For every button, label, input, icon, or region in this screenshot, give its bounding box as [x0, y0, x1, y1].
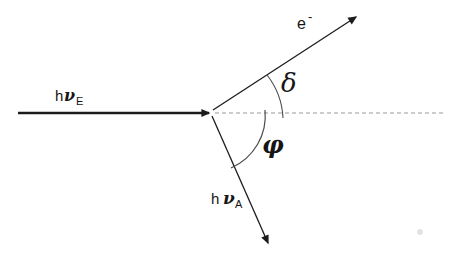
delta-angle-label: δ — [281, 68, 297, 98]
scattered-photon-label-h: h — [211, 190, 219, 207]
incident-photon-label-h: h — [55, 87, 63, 104]
scattered-photon-label-subscript: A — [235, 198, 243, 210]
scattered-photon-arrow — [212, 116, 268, 243]
incident-photon-label-nu: ν — [64, 86, 75, 105]
scattering-diagram-canvas: h ν E e - δ φ h ν A — [0, 0, 453, 264]
electron-label: e - — [297, 9, 312, 32]
scattered-photon-label-nu: ν — [223, 188, 235, 208]
incident-photon-label-subscript: E — [76, 95, 83, 107]
phi-angle-arc — [231, 110, 265, 168]
scattered-photon-label: h ν A — [211, 188, 243, 210]
compton-scattering-diagram: h ν E e - δ φ h ν A — [0, 0, 453, 264]
phi-angle-label: φ — [262, 130, 284, 159]
scan-artifact-smudge — [417, 229, 423, 235]
electron-label-superscript: - — [308, 9, 312, 24]
electron-label-base: e — [297, 15, 306, 32]
incident-photon-label: h ν E — [55, 86, 83, 107]
